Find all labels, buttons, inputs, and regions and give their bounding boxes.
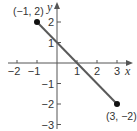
x-tick-label: 1 [74,65,80,77]
x-tick-label: 3 [114,65,120,77]
x-tick-label: 2 [94,65,100,77]
coordinate-plane: −2−1123−3−2−112 (−1, 2)(3, −2) x y [0,0,137,131]
data-point [114,101,120,107]
point-label: (−1, 2) [13,5,44,17]
y-tick-label: −2 [41,98,54,110]
y-axis-arrow-icon [54,2,60,9]
y-tick-label: −3 [41,119,54,131]
y-axis-label: y [46,0,53,14]
x-tick-label: −2 [8,65,21,77]
y-tick-label: −1 [41,78,54,90]
x-axis-label: x [124,64,131,78]
y-tick-label: 2 [48,16,54,28]
point-label: (3, −2) [106,110,137,122]
data-point [34,19,40,25]
axis-ticks: −2−1123−3−2−112 [8,16,120,131]
x-tick-label: −1 [28,65,41,77]
